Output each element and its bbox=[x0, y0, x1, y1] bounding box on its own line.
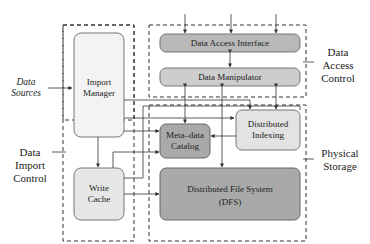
data-access-control-label: Data Access Control bbox=[316, 46, 360, 85]
physical-storage-label: Physical Storage bbox=[314, 147, 366, 173]
data-sources-label: Data Sources bbox=[6, 77, 46, 99]
dfs-label-line1: Distributed File System bbox=[160, 184, 300, 195]
architecture-diagram: Data Sources Import Manager Write Cache … bbox=[0, 0, 370, 244]
metadata-catalog-label: Meta–data Catalog bbox=[163, 130, 207, 152]
write-cache-label: Write Cache bbox=[80, 183, 118, 205]
data-access-interface-label: Data Access Interface bbox=[160, 38, 300, 49]
import-manager-label: Import Manager bbox=[78, 77, 120, 99]
distributed-indexing-label: Distributed Indexing bbox=[244, 119, 292, 141]
data-manipulator-label: Data Manipulator bbox=[160, 72, 300, 83]
dfs-label-line2: (DFS) bbox=[160, 197, 300, 208]
data-import-control-label: Data Import Control bbox=[6, 146, 54, 185]
